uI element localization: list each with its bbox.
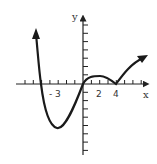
left-end-arrow-icon	[32, 28, 40, 39]
y-axis	[83, 18, 88, 155]
x-tick-label-neg3: - 3	[49, 89, 61, 99]
y-axis-label: y	[71, 11, 78, 22]
right-end-arrow-icon	[137, 55, 148, 63]
x-tick-label-4: 4	[113, 89, 119, 99]
x-tick-label-2: 2	[96, 89, 102, 99]
y-axis-ticks	[83, 25, 88, 150]
function-graph: y x - 3 2 4	[0, 0, 157, 164]
x-axis-label: x	[143, 89, 149, 100]
x-axis	[16, 80, 146, 84]
function-curve	[36, 34, 143, 128]
